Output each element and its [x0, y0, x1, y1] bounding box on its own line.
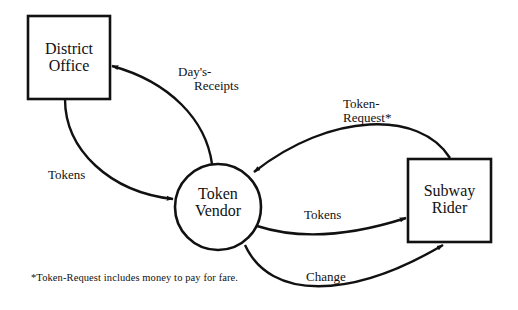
token-request-line2: Request*	[343, 111, 391, 125]
flow-tokens-in-arrow	[65, 99, 173, 199]
subway-rider-line2: Rider	[408, 200, 491, 217]
token-vendor-label: Token Vendor	[175, 186, 261, 220]
tokens-out-label: Tokens	[304, 208, 341, 222]
change-label: Change	[306, 270, 346, 284]
district-office-line1: District	[28, 41, 110, 58]
days-receipts-line2: Receipts	[178, 79, 239, 93]
days-receipts-label: Day's- Receipts	[178, 65, 239, 92]
token-vendor-line2: Vendor	[175, 203, 261, 220]
change-text: Change	[306, 270, 346, 284]
token-request-label: Token- Request*	[343, 97, 391, 124]
token-request-line1: Token-	[343, 97, 391, 111]
district-office-line2: Office	[28, 58, 110, 75]
subway-rider-line1: Subway	[408, 183, 491, 200]
district-office-label: District Office	[28, 41, 110, 75]
tokens-out-text: Tokens	[304, 208, 341, 222]
token-vendor-line1: Token	[175, 186, 261, 203]
tokens-in-text: Tokens	[48, 168, 85, 182]
subway-rider-label: Subway Rider	[408, 183, 491, 217]
tokens-in-label: Tokens	[48, 168, 85, 182]
days-receipts-line1: Day's-	[178, 65, 239, 79]
footnote: *Token-Request includes money to pay for…	[31, 272, 238, 283]
